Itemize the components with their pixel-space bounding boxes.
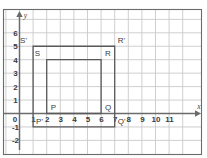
vertex-label: P' xyxy=(36,117,43,126)
y-tick-label: 3 xyxy=(13,69,18,78)
vertex-label: S xyxy=(35,49,40,58)
coordinate-plane-svg: xy01234567891011654321-1-2PQRSP'Q'R'S' xyxy=(0,0,207,158)
y-axis-label: y xyxy=(23,11,28,20)
coordinate-grid-figure: xy01234567891011654321-1-2PQRSP'Q'R'S' xyxy=(0,0,207,158)
x-tick-label: 6 xyxy=(99,115,104,124)
x-tick-label: 9 xyxy=(140,115,145,124)
vertex-label: P xyxy=(51,103,56,112)
plot-background xyxy=(0,0,207,158)
x-tick-label: 4 xyxy=(72,115,77,124)
x-tick-label: 11 xyxy=(165,115,174,124)
y-tick-label: 4 xyxy=(13,56,18,65)
x-tick-label: 3 xyxy=(59,115,64,124)
x-tick-label: 8 xyxy=(127,115,132,124)
y-tick-label: 5 xyxy=(13,42,18,51)
x-axis-label: x xyxy=(196,102,201,111)
vertex-label: S' xyxy=(20,36,27,45)
y-tick-label: 6 xyxy=(13,29,18,38)
y-tick-label: 1 xyxy=(13,96,18,105)
x-tick-label: 10 xyxy=(152,115,161,124)
vertex-label: Q' xyxy=(118,117,126,126)
y-tick-label: -2 xyxy=(12,136,20,145)
vertex-label: R xyxy=(105,49,111,58)
x-tick-label: 5 xyxy=(86,115,91,124)
x-tick-label: 2 xyxy=(45,115,50,124)
y-tick-label: -1 xyxy=(12,123,20,132)
y-tick-label: 2 xyxy=(13,83,18,92)
vertex-label: R' xyxy=(118,36,126,45)
vertex-label: Q xyxy=(105,103,111,112)
